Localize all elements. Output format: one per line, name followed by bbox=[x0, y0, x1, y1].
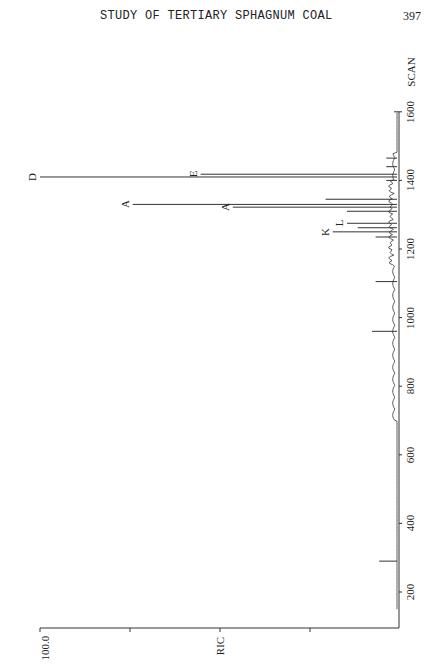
peak-label: A bbox=[219, 203, 231, 211]
scan-tick-label: 1000 bbox=[404, 307, 416, 329]
scan-axis-label: SCAN bbox=[405, 57, 417, 86]
scan-tick-label: 1400 bbox=[404, 169, 416, 191]
peak-label: E bbox=[187, 171, 199, 178]
scan-tick-label: 600 bbox=[404, 447, 416, 464]
intensity-axis-label: RIC bbox=[214, 637, 226, 655]
scan-tick-label: 1200 bbox=[404, 238, 416, 260]
peak-label: A bbox=[119, 200, 131, 208]
peak-label: D bbox=[26, 173, 38, 181]
scan-tick-label: 200 bbox=[404, 584, 416, 601]
baseline-trace bbox=[389, 112, 397, 609]
peak-label: L bbox=[333, 220, 345, 227]
intensity-max-label: 100.0 bbox=[39, 636, 51, 661]
scan-tick-label: 1600 bbox=[404, 101, 416, 123]
scan-tick-label: 400 bbox=[404, 515, 416, 532]
peak-label: K bbox=[319, 228, 331, 236]
chromatogram bbox=[0, 0, 436, 671]
scan-tick-label: 800 bbox=[404, 378, 416, 395]
